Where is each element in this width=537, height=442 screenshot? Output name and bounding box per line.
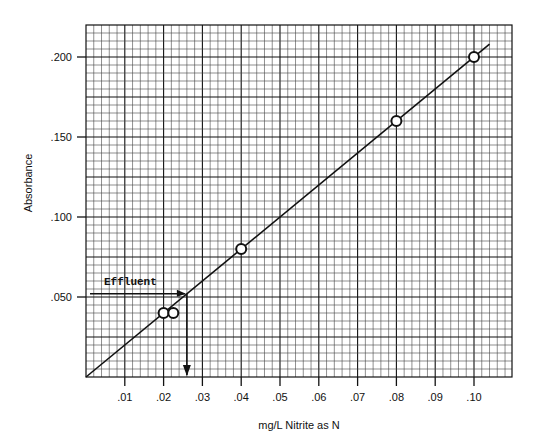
x-tick-label: .08	[389, 391, 404, 403]
effluent-label: Effluent	[104, 276, 157, 288]
x-tick-label: .10	[466, 391, 481, 403]
x-axis-title: mg/L Nitrite as N	[258, 419, 340, 431]
data-point-marker	[391, 116, 401, 126]
x-tick-label: .04	[234, 391, 249, 403]
x-tick-label: .06	[311, 391, 326, 403]
x-tick-label: .05	[272, 391, 287, 403]
y-tick-label: .050	[51, 291, 72, 303]
y-tick-label: .100	[51, 211, 72, 223]
data-point-marker	[469, 52, 479, 62]
data-point-marker	[236, 244, 246, 254]
data-point-marker	[168, 308, 178, 318]
y-tick-label: .200	[51, 51, 72, 63]
x-tick-label: .09	[428, 391, 443, 403]
y-axis-title: Absorbance	[22, 154, 34, 213]
y-tick-label: .150	[51, 131, 72, 143]
data-point-marker	[159, 308, 169, 318]
x-tick-label: .01	[117, 391, 132, 403]
x-tick-label: .07	[350, 391, 365, 403]
x-tick-label: .03	[195, 391, 210, 403]
calibration-chart: .01.02.03.04.05.06.07.08.09.10.050.100.1…	[0, 0, 537, 442]
x-tick-label: .02	[156, 391, 171, 403]
arrowhead-down-icon	[183, 365, 191, 376]
